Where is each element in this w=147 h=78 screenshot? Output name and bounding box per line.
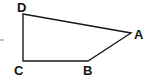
vertex-label-a: A — [134, 27, 144, 42]
quadrilateral-diagram: D A B C — [0, 0, 147, 78]
quadrilateral-abcd — [23, 14, 131, 61]
vertex-label-d: D — [17, 0, 26, 15]
vertex-label-b: B — [83, 63, 92, 78]
vertex-label-c: C — [14, 63, 24, 78]
